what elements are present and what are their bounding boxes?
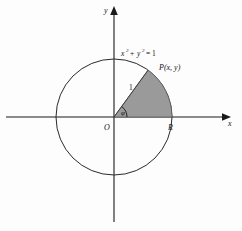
angle-phi-label: φ bbox=[121, 109, 125, 117]
y-axis-label: y bbox=[103, 6, 108, 15]
x-axis-label: x bbox=[227, 119, 232, 128]
equation-y: y bbox=[136, 49, 141, 58]
equation-x: x bbox=[120, 49, 125, 58]
circle-equation-label: x 2 + y 2 = 1 bbox=[120, 48, 156, 58]
r-point-label: R bbox=[167, 123, 173, 132]
equation-x-exponent: 2 bbox=[126, 48, 129, 53]
origin-label: O bbox=[104, 123, 110, 132]
radius-length-label: 1 bbox=[129, 83, 133, 92]
equation-plus-sign: + bbox=[130, 49, 134, 58]
equation-equals-one: = 1 bbox=[146, 49, 156, 58]
y-axis-arrowhead bbox=[110, 6, 118, 15]
unit-circle-diagram: x 2 + y 2 = 1 P(x, y) 1 φ O R x y bbox=[0, 0, 242, 231]
point-p-label: P(x, y) bbox=[158, 63, 181, 72]
equation-y-exponent: 2 bbox=[142, 48, 145, 53]
figure-container: x 2 + y 2 = 1 P(x, y) 1 φ O R x y bbox=[0, 0, 242, 231]
